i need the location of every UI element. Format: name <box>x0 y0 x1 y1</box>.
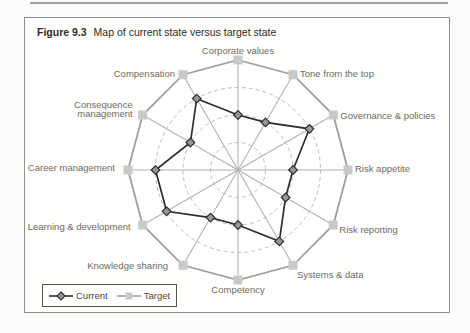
target-marker-compensation <box>179 70 188 79</box>
current-marker-competency <box>234 221 243 230</box>
axis-label-systems-data: Systems & data <box>297 269 364 280</box>
axis-label-governance-policies: Governance & policies <box>340 110 435 121</box>
current-marker-corporate-values <box>234 111 243 120</box>
current-marker-tone-from-the-top <box>261 118 270 127</box>
axis-label-career-management: Career management <box>28 162 115 173</box>
axis-label-consequence-management: Consequencemanagement <box>74 99 133 120</box>
target-marker-consequence-management <box>138 111 147 120</box>
legend-item-current: Current <box>49 290 108 301</box>
legend-label-current: Current <box>76 290 108 301</box>
target-marker-learning-development <box>138 221 147 230</box>
current-series-marker-icon <box>49 291 73 301</box>
current-marker-learning-development <box>162 207 171 216</box>
target-marker-tone-from-the-top <box>289 70 298 79</box>
current-marker-systems-data <box>275 237 284 246</box>
axis-spoke-compensation <box>183 75 238 170</box>
axis-label-compensation: Compensation <box>114 68 175 79</box>
target-marker-risk-reporting <box>329 221 338 230</box>
target-marker-governance-policies <box>329 111 338 120</box>
axis-label-corporate-values: Corporate values <box>202 45 275 56</box>
current-marker-governance-policies <box>305 125 314 134</box>
page: Figure 9.3Map of current state versus ta… <box>0 0 470 333</box>
target-marker-corporate-values <box>234 56 243 65</box>
current-marker-risk-appetite <box>289 166 298 175</box>
legend-item-target: Target <box>117 290 170 301</box>
axis-label-knowledge-sharing: Knowledge sharing <box>87 260 168 271</box>
axis-label-tone-from-the-top: Tone from the top <box>300 68 374 79</box>
chart-legend: Current Target <box>42 284 177 307</box>
axis-label-risk-appetite: Risk appetite <box>355 163 410 174</box>
current-marker-knowledge-sharing <box>206 213 215 222</box>
target-series-marker-icon <box>117 291 141 301</box>
target-marker-career-management <box>124 166 133 175</box>
axis-spoke-governance-policies <box>238 115 333 170</box>
legend-label-target: Target <box>144 290 170 301</box>
target-marker-risk-appetite <box>344 166 353 175</box>
current-marker-compensation <box>192 94 201 103</box>
axis-label-risk-reporting: Risk reporting <box>339 224 398 235</box>
current-marker-risk-reporting <box>281 193 290 202</box>
axis-label-competency: Competency <box>211 284 265 295</box>
target-marker-knowledge-sharing <box>179 261 188 270</box>
axis-label-learning-development: Learning & development <box>28 221 131 232</box>
axis-spoke-systems-data <box>238 170 293 265</box>
